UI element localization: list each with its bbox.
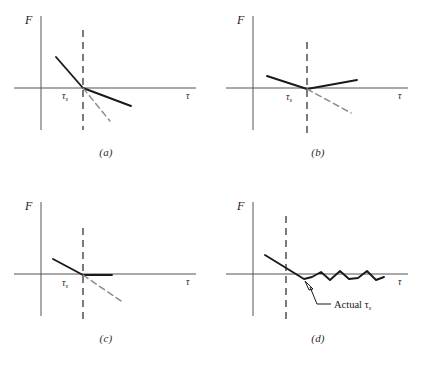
y-axis-label: F bbox=[24, 13, 33, 27]
panel-d-caption: (d) bbox=[212, 332, 424, 344]
threshold-label: τs bbox=[62, 278, 68, 289]
panel-c-caption: (c) bbox=[0, 332, 212, 344]
annotation-arrowhead bbox=[305, 281, 313, 290]
panel-b-plot: F τ τs bbox=[212, 0, 424, 186]
threshold-label: τs bbox=[62, 91, 68, 102]
extrapolated-branch bbox=[83, 275, 124, 303]
panel-a: F τ τs (a) bbox=[0, 0, 212, 186]
y-axis-label: F bbox=[236, 199, 245, 213]
annotation-text-subscript: s bbox=[369, 304, 372, 311]
pre-slip-branch bbox=[53, 259, 83, 275]
extrapolated-branch bbox=[307, 89, 351, 113]
x-axis-label: τ bbox=[398, 91, 402, 101]
x-axis-label: τ bbox=[186, 277, 190, 287]
y-axis-label: F bbox=[24, 199, 33, 213]
panel-a-plot: F τ τs bbox=[0, 0, 212, 186]
panel-b-caption: (b) bbox=[212, 146, 424, 158]
panel-c-plot: F τ τs bbox=[0, 186, 212, 372]
actual-threshold-annotation: Actual τs bbox=[334, 299, 372, 311]
panel-c: F τ τs (c) bbox=[0, 186, 212, 372]
x-axis-label: τ bbox=[186, 91, 190, 101]
panel-b: F τ τs (b) bbox=[212, 0, 424, 186]
panel-a-caption: (a) bbox=[0, 146, 212, 158]
panel-d-plot: F τ Actual τs bbox=[212, 186, 424, 372]
stick-slip-trace bbox=[265, 255, 384, 280]
threshold-label-subscript: s bbox=[65, 282, 68, 289]
y-axis-label: F bbox=[236, 13, 245, 27]
x-axis-label: τ bbox=[398, 277, 402, 287]
panel-d: F τ Actual τs (d) bbox=[212, 186, 424, 372]
annotation-leader-line bbox=[310, 287, 331, 304]
threshold-label: τs bbox=[286, 92, 292, 103]
threshold-label-subscript: s bbox=[65, 95, 68, 102]
threshold-label-subscript: s bbox=[289, 96, 292, 103]
pre-slip-branch bbox=[56, 57, 83, 88]
pre-slip-branch bbox=[267, 76, 307, 89]
annotation-text-main: Actual τ bbox=[334, 299, 369, 310]
figure-grid: F τ τs (a) F τ τs (b) bbox=[0, 0, 424, 372]
